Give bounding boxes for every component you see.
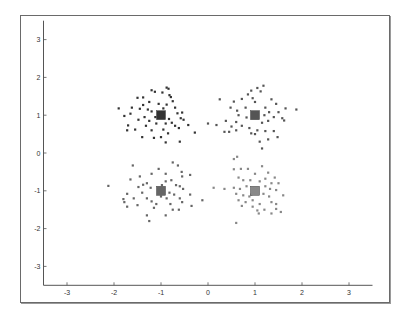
data-point — [181, 175, 183, 177]
data-point — [245, 116, 247, 118]
y-tick-label: 2 — [37, 74, 41, 81]
data-point — [168, 118, 170, 120]
data-point — [230, 125, 232, 127]
data-point — [187, 124, 189, 126]
data-point — [275, 208, 277, 210]
data-point — [160, 195, 162, 197]
data-point — [158, 168, 160, 170]
data-point — [146, 182, 148, 184]
data-point — [201, 199, 203, 201]
data-point — [233, 100, 235, 102]
data-point — [178, 127, 180, 129]
data-point — [233, 168, 235, 170]
data-point — [236, 156, 238, 158]
data-point — [249, 179, 251, 181]
data-point — [165, 214, 167, 216]
data-point — [241, 125, 243, 127]
data-point — [129, 113, 131, 115]
data-point — [270, 98, 272, 100]
x-tick-label: 2 — [300, 289, 304, 296]
data-point — [146, 214, 148, 216]
data-point — [146, 197, 148, 199]
data-point — [168, 94, 170, 96]
data-point — [172, 100, 174, 102]
data-point — [126, 206, 128, 208]
data-point — [107, 185, 109, 187]
data-point — [181, 201, 183, 203]
data-point — [178, 209, 180, 211]
data-point — [160, 136, 162, 138]
data-point — [275, 103, 277, 105]
data-point — [190, 205, 192, 207]
data-point — [281, 117, 283, 119]
data-point — [182, 188, 184, 190]
data-point — [175, 184, 177, 186]
data-point — [132, 164, 134, 166]
data-point — [173, 193, 175, 195]
data-point — [240, 168, 242, 170]
data-point — [179, 185, 181, 187]
data-point — [268, 195, 270, 197]
data-point — [143, 116, 145, 118]
data-point — [179, 197, 181, 199]
data-point — [264, 107, 266, 109]
data-point — [233, 158, 235, 160]
data-point — [168, 192, 170, 194]
data-point — [264, 130, 266, 132]
centroid-marker — [157, 111, 166, 120]
data-point — [151, 110, 153, 112]
y-tick-label: -1 — [34, 187, 40, 194]
data-point — [165, 141, 167, 143]
data-point — [151, 173, 153, 175]
data-point — [268, 111, 270, 113]
x-tick-label: -2 — [111, 289, 117, 296]
data-point — [165, 173, 167, 175]
data-point — [261, 147, 263, 149]
data-point — [283, 119, 285, 121]
data-point — [267, 172, 269, 174]
data-point — [248, 195, 250, 197]
data-point — [174, 107, 176, 109]
data-point — [250, 132, 252, 134]
data-point — [171, 122, 173, 124]
data-point — [165, 122, 167, 124]
data-point — [264, 185, 266, 187]
data-point — [166, 87, 168, 89]
y-tick-label: 3 — [37, 36, 41, 43]
y-tick-label: -3 — [34, 263, 40, 270]
data-point — [256, 129, 258, 131]
data-point — [153, 207, 155, 209]
data-point — [150, 187, 152, 189]
data-point — [225, 120, 227, 122]
data-point — [155, 203, 157, 205]
data-point — [148, 101, 150, 103]
data-point — [270, 201, 272, 203]
data-point — [276, 136, 278, 138]
data-point — [262, 193, 264, 195]
data-point — [262, 85, 264, 87]
data-point — [264, 178, 266, 180]
data-point — [151, 89, 153, 91]
data-point — [273, 116, 275, 118]
data-point — [263, 114, 265, 116]
data-point — [233, 187, 235, 189]
data-point — [189, 174, 191, 176]
data-point — [267, 138, 269, 140]
data-point — [242, 194, 244, 196]
data-point — [269, 188, 271, 190]
data-point — [254, 173, 256, 175]
data-point — [169, 203, 171, 205]
x-tick-label: -3 — [64, 289, 70, 296]
data-point — [154, 91, 156, 93]
data-point — [155, 122, 157, 124]
x-tick-label: -1 — [158, 289, 164, 296]
data-point — [295, 108, 297, 110]
data-point — [241, 205, 243, 207]
data-point — [254, 133, 256, 135]
data-point — [267, 120, 269, 122]
data-point — [137, 186, 139, 188]
data-point — [153, 137, 155, 139]
data-point — [270, 182, 272, 184]
axes: -3-2-10123-3-2-10123 — [34, 21, 372, 297]
data-point — [170, 179, 172, 181]
